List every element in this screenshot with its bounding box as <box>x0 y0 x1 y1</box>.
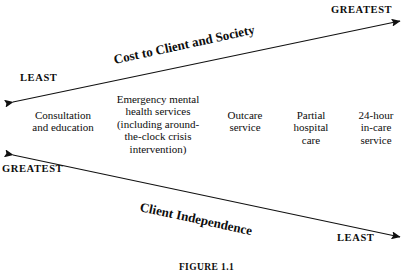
service-item-partial-hospital-care: Partialhospitalcare <box>280 109 342 146</box>
figure-caption: FIGURE 1.1 <box>0 262 413 271</box>
service-continuum-row: Consultationand education Emergency ment… <box>0 93 413 157</box>
text-line: Partial <box>297 109 326 121</box>
text-line: (including around- <box>117 118 199 130</box>
text-line: and education <box>32 121 93 133</box>
text-line: hospital <box>294 121 329 133</box>
text-line: Outcare <box>228 109 263 121</box>
service-item-24-hour-in-care-service: 24-hourin-careservice <box>345 109 407 146</box>
text-line: care <box>302 134 320 146</box>
text-line: service <box>229 121 260 133</box>
text-line: intervention) <box>130 143 187 155</box>
service-item-consultation-and-education: Consultationand education <box>17 109 109 134</box>
text-line: health services <box>125 105 190 117</box>
figure-container: GREATEST LEAST GREATEST LEAST Cost to Cl… <box>0 0 413 271</box>
text-line: 24-hour <box>359 109 394 121</box>
service-item-emergency-mental-health-services: Emergency mentalhealth services(includin… <box>106 93 210 155</box>
text-line: the-clock crisis <box>125 130 192 142</box>
text-line: in-care <box>361 121 392 133</box>
independence-axis-low-label: LEAST <box>337 232 374 243</box>
cost-axis-high-label: GREATEST <box>331 4 392 15</box>
text-line: service <box>360 134 391 146</box>
cost-axis-low-label: LEAST <box>20 72 57 83</box>
service-item-outcare-service: Outcareservice <box>212 109 278 134</box>
text-line: Emergency mental <box>117 93 200 105</box>
independence-axis-high-label: GREATEST <box>2 163 63 174</box>
text-line: Consultation <box>35 109 91 121</box>
